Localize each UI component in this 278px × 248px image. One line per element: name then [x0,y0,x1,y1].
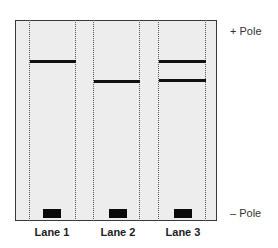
lane-2-right-boundary [139,20,140,221]
positive-pole-label: + Pole [230,25,262,37]
lane-2-left-boundary [93,20,94,221]
lane-3-band-2 [159,79,206,82]
lane-2-band-1 [94,80,140,83]
lane-1-label: Lane 1 [27,226,77,238]
lane-1-right-boundary [75,20,76,221]
lane-3-well [174,209,192,218]
lane-2-well [109,209,127,218]
lane-3-right-boundary [205,20,206,221]
lane-1-band-1 [30,60,76,63]
lane-1-left-boundary [29,20,30,221]
negative-pole-label: – Pole [230,207,261,219]
gel [15,20,217,221]
lane-1-well [43,209,61,218]
lane-3-label: Lane 3 [158,226,208,238]
lane-3-left-boundary [158,20,159,221]
lane-3-band-1 [159,60,206,63]
lane-2-label: Lane 2 [93,226,143,238]
